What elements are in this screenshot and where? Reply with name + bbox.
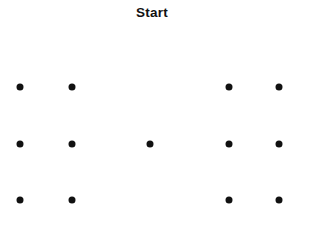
dot-r1-c1 [17,84,24,91]
dot-r1-c2 [69,84,76,91]
dot-r3-c5 [276,197,283,204]
dot-r2-c1 [17,141,24,148]
dot-r3-c2 [69,197,76,204]
dot-r2-c3 [147,141,154,148]
dot-r3-c1 [17,197,24,204]
dot-r2-c4 [226,141,233,148]
dot-r1-c5 [276,84,283,91]
dot-grid [0,0,310,230]
dot-r2-c5 [276,141,283,148]
dot-r1-c4 [226,84,233,91]
stimulus-canvas: Start [0,0,310,230]
dot-r3-c4 [226,197,233,204]
dot-r2-c2 [69,141,76,148]
